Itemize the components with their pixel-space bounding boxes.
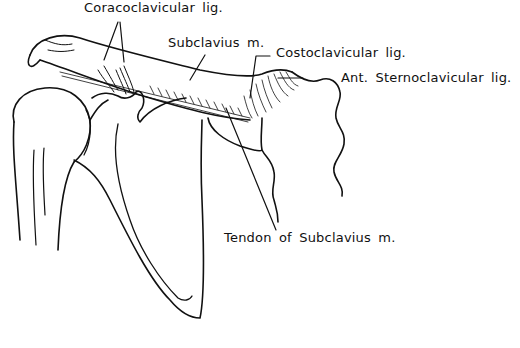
anatomy-drawing [0,0,520,348]
label-coracoclavicular-lig: Coracoclavicular lig. [84,0,223,15]
sternum [208,72,344,222]
label-costoclavicular-lig: Costoclavicular lig. [276,45,406,60]
label-subclavius-m: Subclavius m. [168,35,264,50]
anatomy-figure: Coracoclavicular lig. Subclavius m. Cost… [0,0,520,348]
sternoclavicular-ligaments [244,72,298,118]
label-tendon-of-subclavius-m: Tendon of Subclavius m. [224,230,396,245]
humerus [13,88,90,250]
coracoclavicular-ligament [98,66,134,94]
label-ant-sternoclavicular-lig: Ant. Sternoclavicular lig. [341,70,511,85]
scapula [74,91,203,318]
